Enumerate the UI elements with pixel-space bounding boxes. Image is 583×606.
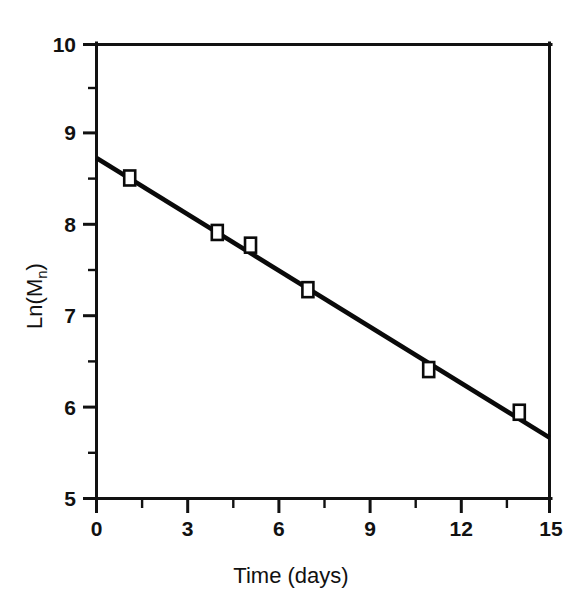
data-point-marker — [124, 170, 135, 185]
data-point-marker — [212, 225, 223, 240]
x-tick-label-3: 3 — [182, 517, 194, 540]
y-tick-label-10: 10 — [53, 33, 76, 56]
x-tick-label-9: 9 — [364, 517, 376, 540]
x-tick-label-0: 0 — [91, 517, 103, 540]
data-point-marker — [514, 405, 525, 420]
data-point-marker — [302, 282, 313, 297]
y-tick-label-9: 9 — [64, 121, 76, 144]
y-tick-label-6: 6 — [64, 396, 76, 419]
data-point-marker — [245, 238, 256, 253]
y-tick-label-5: 5 — [64, 487, 76, 510]
chart-figure: 5 6 7 8 9 10 0 3 6 9 12 — [0, 0, 583, 606]
x-tick-label-12: 12 — [450, 517, 473, 540]
y-axis-title-base: Ln(M — [22, 279, 47, 329]
x-axis-title: Time (days) — [233, 563, 348, 588]
y-tick-label-7: 7 — [64, 304, 76, 327]
x-tick-label-6: 6 — [273, 517, 285, 540]
x-tick-label-15: 15 — [539, 517, 563, 540]
y-tick-label-8: 8 — [64, 213, 76, 236]
y-axis-title-subscript: n — [33, 270, 50, 278]
y-axis-title-close: ) — [22, 263, 47, 270]
chart-background — [0, 0, 583, 606]
data-point-marker — [423, 362, 434, 377]
ln-mn-vs-time-chart: 5 6 7 8 9 10 0 3 6 9 12 — [0, 0, 583, 606]
